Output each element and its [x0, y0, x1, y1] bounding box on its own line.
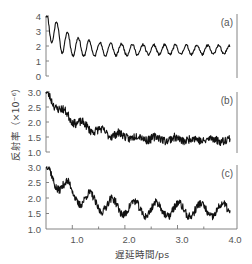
- panel-b-ytick-label: 2.5: [28, 102, 41, 113]
- panel-c-ytick-label: 2.0: [28, 193, 41, 204]
- panel-b-ytick-label: 1.5: [28, 132, 41, 143]
- panel-a-ytick-label: 4: [36, 11, 41, 22]
- panel-a-label: (a): [221, 17, 233, 28]
- xtick-label: 3.0: [175, 234, 188, 245]
- panel-a-ytick-label: 3: [36, 26, 41, 37]
- panel-b-trace: [46, 92, 230, 146]
- panel-b: 3.0 2.5 2.0 1.5 1.0 (b): [28, 87, 237, 158]
- xtick-label: 2.0: [122, 234, 135, 245]
- x-axis-title: 遅延時間/ps: [115, 249, 169, 260]
- chart-figure: 4 3 2 1 0 (a) 3.0 2.5 2.0 1.5 1.0 (b) 3.…: [0, 0, 252, 264]
- y-axis-title: 反射率（×10⁻⁶）: [10, 83, 21, 162]
- panel-a-ytick-label: 2: [36, 41, 41, 52]
- panel-b-label: (b): [221, 95, 233, 106]
- panel-a-ytick-label: 1: [36, 56, 41, 67]
- panel-a-ytick-label: 0: [36, 71, 41, 82]
- panel-c-ytick-label: 1.5: [28, 208, 41, 219]
- panel-a-trace: [46, 16, 230, 57]
- panel-b-ytick-label: 2.0: [28, 117, 41, 128]
- panel-c-ytick-label: 3.0: [28, 162, 41, 173]
- panel-c-label: (c): [221, 168, 233, 179]
- xtick-label: 4.0: [228, 234, 241, 245]
- panel-c-ytick-label: 1.0: [28, 224, 41, 235]
- panel-a: 4 3 2 1 0 (a): [36, 11, 237, 82]
- panel-c-ytick-label: 2.5: [28, 177, 41, 188]
- panel-c-trace: [46, 167, 230, 220]
- panel-c: 3.0 2.5 2.0 1.5 1.0 1.0 2.0 3.0 4.0 (c): [28, 162, 242, 246]
- xtick-label: 1.0: [70, 234, 83, 245]
- panel-b-ytick-label: 1.0: [28, 147, 41, 158]
- panel-b-ytick-label: 3.0: [28, 87, 41, 98]
